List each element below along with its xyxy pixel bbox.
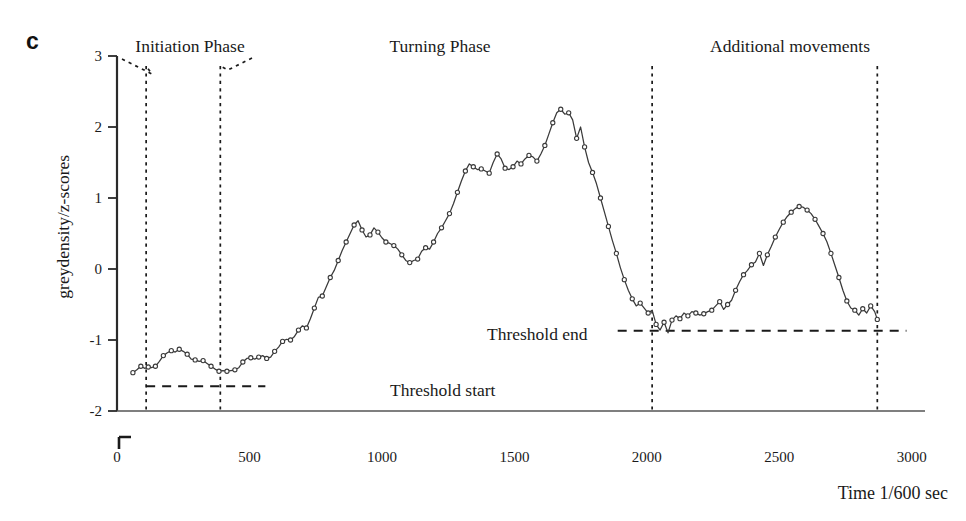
data-point [368,233,372,237]
data-point [527,153,531,157]
y-tick-label: 2 [74,120,102,135]
y-tick-label: -1 [74,333,102,348]
data-point [686,314,690,318]
data-point [590,170,594,174]
x-tick-label: 2500 [749,450,809,465]
data-point [265,356,269,360]
data-point [614,251,618,255]
data-point [567,111,571,115]
figure-panel-c: c greydensity/z-scores Time 1/600 sec 32… [0,0,966,521]
data-point [280,339,284,343]
y-tick-label: 1 [74,191,102,206]
data-point [559,107,563,111]
data-point [146,365,150,369]
data-point [153,364,157,368]
data-point [487,171,491,175]
data-point [131,371,135,375]
data-point [598,196,602,200]
data-point [495,152,499,156]
data-point [741,273,745,277]
data-point [575,136,579,140]
data-point [312,306,316,310]
data-point [169,349,173,353]
threshold-end-label: Threshold end [487,326,588,344]
data-point [177,347,181,351]
data-point [392,243,396,247]
data-point [869,304,873,308]
data-point [471,165,475,169]
data-point [376,230,380,234]
data-point [821,231,825,235]
data-point [241,360,245,364]
data-point [837,275,841,279]
x-tick-label: 0 [87,450,147,465]
origin-corner-mark [119,437,131,449]
phase-leader-line [122,59,152,74]
data-point [511,165,515,169]
y-tick-label: 0 [74,262,102,277]
data-point [853,308,857,312]
data-point [694,311,698,315]
x-tick-label: 1500 [484,450,544,465]
data-point [805,208,809,212]
data-point [813,217,817,221]
data-point [678,317,682,321]
data-point [139,364,143,368]
data-point [781,220,785,224]
data-point [424,246,428,250]
data-point [201,358,205,362]
data-point [551,121,555,125]
data-point [829,251,833,255]
data-point [535,159,539,163]
data-point [455,190,459,194]
data-point [789,210,793,214]
y-tick-marks [108,56,117,411]
data-point [749,263,753,267]
data-point [217,369,221,373]
data-point [875,317,879,321]
x-tick-label: 2000 [617,450,677,465]
axis-lines [108,56,925,449]
data-point [718,300,722,304]
data-point [225,369,229,373]
data-point [726,302,730,306]
data-point [606,224,610,228]
data-point [861,307,865,311]
data-point [662,320,666,324]
data-point [336,258,340,262]
data-point [384,240,388,244]
x-tick-label: 1000 [352,450,412,465]
data-point [249,356,253,360]
data-point [304,326,308,330]
data-point [161,354,165,358]
data-point [431,240,435,244]
panel-label: c [26,30,39,53]
data-point [582,145,586,149]
data-point [273,349,277,353]
data-point [344,240,348,244]
data-point [400,253,404,257]
phase-label-initiation: Initiation Phase [80,38,300,56]
data-point [408,261,412,265]
data-point [479,167,483,171]
data-point [845,299,849,303]
data-point [193,358,197,362]
data-point [233,368,237,372]
phase-label-turning: Turning Phase [330,38,550,56]
data-point [519,162,523,166]
data-point [773,235,777,239]
data-point [352,223,356,227]
data-point [638,301,642,305]
data-point [439,226,443,230]
y-tick-label: -2 [74,404,102,419]
data-point [797,204,801,208]
data-point [257,355,261,359]
data-point [463,169,467,173]
data-point [296,328,300,332]
data-point [320,294,324,298]
data-point [185,352,189,356]
data-point [328,275,332,279]
data-point [702,312,706,316]
phase-label-additional: Additional movements [680,38,900,56]
data-point [646,311,650,315]
